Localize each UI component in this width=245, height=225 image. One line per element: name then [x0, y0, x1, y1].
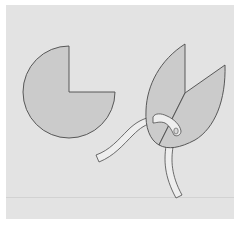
cord-lower-end [165, 146, 182, 198]
circle-with-quarter-cut-shape [23, 46, 115, 138]
hole-icon [174, 128, 178, 134]
craft-diagram [0, 0, 245, 225]
cord-left-end [96, 117, 153, 162]
